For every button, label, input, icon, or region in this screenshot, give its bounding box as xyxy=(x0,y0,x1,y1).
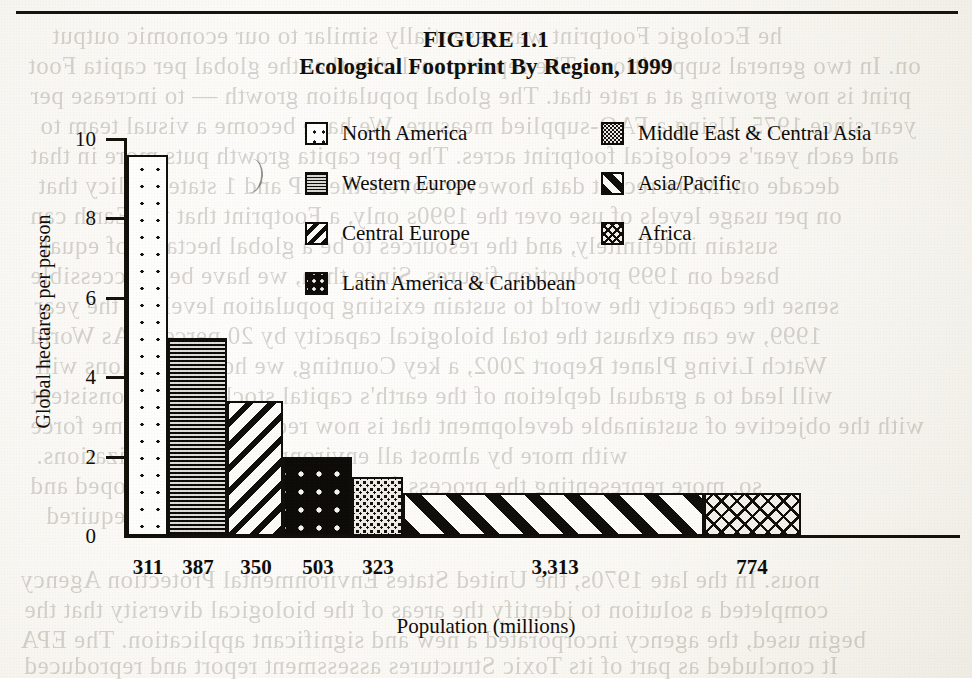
y-tick-mark xyxy=(106,138,125,141)
y-tick-mark xyxy=(106,217,125,220)
figure-title: Ecological Footprint By Region, 1999 xyxy=(0,53,972,80)
bar-latin-america-caribbean xyxy=(283,457,352,536)
x-tick-label-north-america: 311 xyxy=(133,555,163,579)
chart-bars xyxy=(127,139,915,536)
x-tick-label-asia-pacific: 3,313 xyxy=(531,555,578,579)
figure-number: FIGURE 1.1 xyxy=(0,26,972,53)
bar-western-europe xyxy=(168,338,227,536)
x-tick-label-middle-east-central-asia: 323 xyxy=(362,555,394,579)
bar-central-europe xyxy=(227,401,283,536)
x-axis-title: Population (millions) xyxy=(0,614,972,639)
bar-middle-east-central-asia xyxy=(352,477,403,536)
x-tick-label-western-europe: 387 xyxy=(182,555,214,579)
y-tick-mark xyxy=(106,376,125,379)
figure-title-block: FIGURE 1.1 Ecological Footprint By Regio… xyxy=(0,26,972,80)
bar-asia-pacific xyxy=(403,493,704,536)
x-tick-label-africa: 774 xyxy=(736,555,768,579)
y-tick-mark xyxy=(106,456,125,459)
y-tick-label: 0 xyxy=(36,526,96,547)
x-tick-label-latin-america-caribbean: 503 xyxy=(302,555,334,579)
y-tick-label: 10 xyxy=(36,129,96,150)
y-axis-title: Global hectares per person xyxy=(32,162,55,482)
bar-africa xyxy=(704,493,801,536)
bar-north-america xyxy=(127,155,168,536)
header-rule xyxy=(16,11,958,14)
x-axis-tick-labels: 311 387 350 503 323 3,313 774 xyxy=(0,555,972,585)
x-tick-label-central-europe: 350 xyxy=(240,555,272,579)
y-tick-mark xyxy=(106,297,125,300)
